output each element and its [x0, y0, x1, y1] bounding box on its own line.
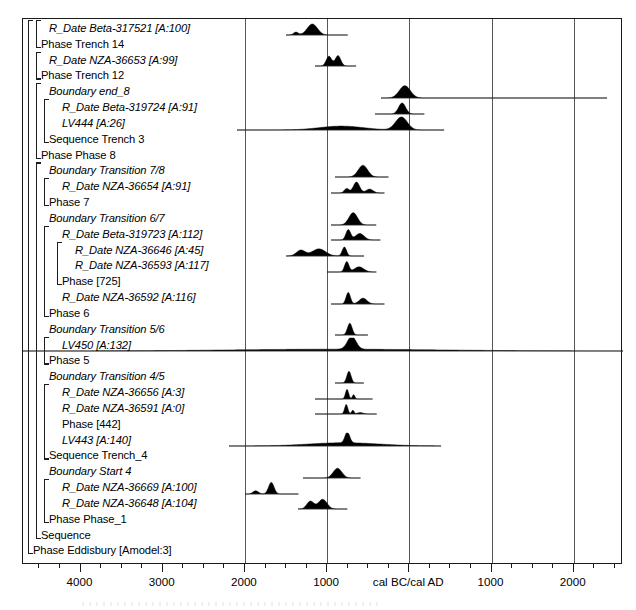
- bracket-stem: [44, 99, 45, 142]
- distribution-curve: [286, 22, 348, 41]
- axis-tick-label: cal BC/cal AD: [373, 575, 444, 588]
- axis-tick-label: 2000: [231, 575, 257, 588]
- axis-tick-label: 3000: [149, 575, 175, 588]
- axis-tick-label: 1000: [478, 575, 504, 588]
- axis-minor-tick: [552, 564, 553, 568]
- axis-minor-tick: [59, 564, 60, 568]
- axis-minor-tick: [223, 564, 224, 568]
- distribution-curve: [315, 53, 356, 72]
- bracket-stem: [36, 162, 37, 537]
- axis-minor-tick: [347, 564, 348, 568]
- bracket-stem: [28, 20, 29, 553]
- axis-minor-tick: [265, 564, 266, 568]
- distribution-curve: [245, 481, 298, 500]
- axis-minor-tick: [285, 564, 286, 568]
- bracket-stem: [36, 83, 37, 157]
- axis-major-tick: [573, 564, 574, 572]
- axis-minor-tick: [100, 564, 101, 568]
- axis-minor-tick: [38, 564, 39, 568]
- bracket-top-arm: [36, 20, 41, 21]
- bracket-stem: [57, 242, 58, 285]
- axis-major-tick: [244, 564, 245, 572]
- x-axis: 4000300020001000cal BC/cal AD10002000: [22, 564, 622, 610]
- axis-minor-tick: [182, 564, 183, 568]
- axis-major-tick: [491, 564, 492, 572]
- axis-major-tick: [408, 564, 409, 572]
- axis-minor-tick: [367, 564, 368, 568]
- axis-minor-tick: [121, 564, 122, 568]
- axis-tick-label: 4000: [67, 575, 93, 588]
- axis-major-tick: [80, 564, 81, 572]
- oxcal-multiplot: R_Date Beta-317521 [A:100]Phase Trench 1…: [0, 0, 636, 610]
- distribution-curve: [229, 433, 441, 452]
- axis-tick-label: 1000: [313, 575, 339, 588]
- bracket-stem: [36, 20, 37, 47]
- bracket-stem: [36, 52, 37, 79]
- distribution-curve: [298, 496, 347, 515]
- distribution-curve: [237, 117, 444, 136]
- axis-minor-tick: [449, 564, 450, 568]
- row-label: Phase Eddisbury [Amodel:3]: [33, 541, 172, 560]
- bracket-stem: [44, 226, 45, 316]
- axis-minor-tick: [203, 564, 204, 568]
- plot-frame: R_Date Beta-317521 [A:100]Phase Trench 1…: [22, 18, 622, 564]
- axis-minor-tick: [141, 564, 142, 568]
- axis-minor-tick: [470, 564, 471, 568]
- axis-minor-tick: [614, 564, 615, 568]
- bracket-top-arm: [28, 20, 33, 21]
- axis-minor-tick: [511, 564, 512, 568]
- axis-minor-tick: [306, 564, 307, 568]
- bracket-stem: [44, 178, 45, 205]
- bracket-stem: [44, 384, 45, 458]
- axis-major-tick: [326, 564, 327, 572]
- axis-tick-label: 2000: [560, 575, 586, 588]
- bracket-stem: [44, 337, 45, 364]
- scan-artifact: [82, 602, 382, 606]
- distribution-curve: [315, 401, 377, 420]
- distribution-curve: [303, 465, 361, 484]
- bracket-stem: [44, 479, 45, 522]
- axis-minor-tick: [429, 564, 430, 568]
- distribution-curve: [327, 259, 376, 278]
- axis-major-tick: [162, 564, 163, 572]
- axis-minor-tick: [388, 564, 389, 568]
- distribution-curve: [331, 180, 384, 199]
- axis-minor-tick: [532, 564, 533, 568]
- axis-minor-tick: [593, 564, 594, 568]
- distribution-curve: [331, 291, 384, 310]
